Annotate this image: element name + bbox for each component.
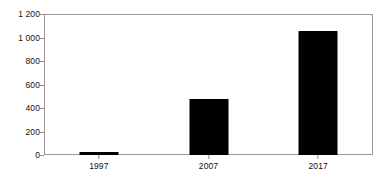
bars-layer: [44, 14, 373, 155]
bar-2017: [299, 31, 338, 155]
x-axis-tick-label: 1997: [89, 161, 108, 172]
x-axis-tick-label: 2007: [199, 161, 218, 172]
x-axis-tick-label: 2017: [309, 161, 328, 172]
x-axis-tick: 2007: [199, 155, 218, 172]
x-axis-tick-mark: [208, 155, 209, 159]
bar-chart: 02004006008001 0001 200 199720072017: [0, 0, 390, 182]
x-axis-tick-mark: [98, 155, 99, 159]
x-axis: 199720072017: [0, 155, 390, 182]
x-axis-tick-mark: [318, 155, 319, 159]
x-axis-tick: 1997: [89, 155, 108, 172]
bar-2007: [189, 99, 228, 155]
x-axis-tick: 2017: [309, 155, 328, 172]
